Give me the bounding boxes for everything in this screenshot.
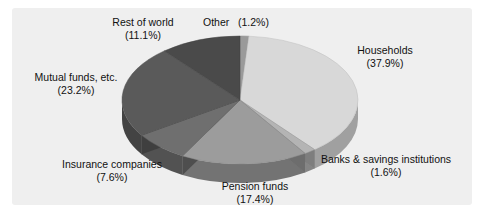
slice-label-other: Other (1.2%)	[203, 16, 303, 29]
slice-label-percent: (1.6%)	[303, 166, 469, 179]
slice-label-name: Pension funds	[196, 180, 314, 193]
slice-label-name: Rest of world	[84, 16, 202, 29]
slice-label-percent: (37.9%)	[333, 57, 437, 70]
slice-label-households: Households (37.9%)	[333, 44, 437, 69]
slice-label-mutual-funds: Mutual funds, etc. (23.2%)	[18, 71, 134, 96]
slice-label-percent: (11.1%)	[84, 29, 202, 42]
slice-label-percent: (7.6%)	[46, 171, 178, 184]
slice-label-name: Other	[203, 16, 229, 28]
slice-label-banks: Banks & savings institutions (1.6%)	[303, 153, 469, 178]
slice-label-name: Households	[333, 44, 437, 57]
slice-label-rest-of-world: Rest of world (11.1%)	[84, 16, 202, 41]
slice-label-insurance-companies: Insurance companies (7.6%)	[46, 158, 178, 183]
slice-label-name: Banks & savings institutions	[303, 153, 469, 166]
slice-label-percent: (23.2%)	[18, 84, 134, 97]
pie-chart-figure: Rest of world (11.1%) Other (1.2%) House…	[0, 0, 486, 219]
slice-label-pension-funds: Pension funds (17.4%)	[196, 180, 314, 205]
slice-label-percent: (17.4%)	[196, 193, 314, 206]
slice-label-name: Insurance companies	[46, 158, 178, 171]
slice-label-percent: (1.2%)	[238, 16, 269, 28]
slice-label-name: Mutual funds, etc.	[18, 71, 134, 84]
